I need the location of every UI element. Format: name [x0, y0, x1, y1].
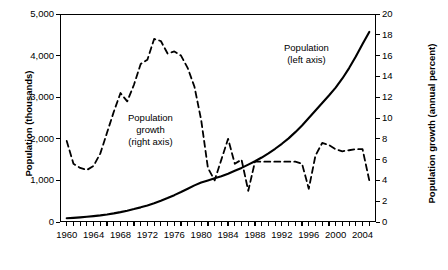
annotation-line: (right axis) — [128, 136, 173, 148]
annotation-population-growth: Populationgrowth(right axis) — [128, 112, 173, 148]
annotation-line: Population — [128, 112, 173, 124]
population-chart: Population (thousands) Population growth… — [0, 0, 448, 270]
annotation-line: (left axis) — [284, 54, 329, 66]
series-layer — [0, 0, 448, 270]
annotation-line: Population — [284, 42, 329, 54]
annotation-population: Population(left axis) — [284, 42, 329, 66]
annotation-line: growth — [128, 124, 173, 136]
